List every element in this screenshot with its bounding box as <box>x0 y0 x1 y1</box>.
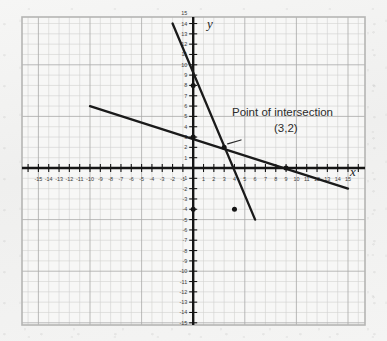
y-tick-label: 10 <box>181 62 187 68</box>
coordinate-plane: -15-14-13-12-11-10-9-8-7-6-5-4-3-2-11234… <box>0 0 387 341</box>
marked-point <box>222 145 227 150</box>
y-tick-label: 14 <box>181 21 187 27</box>
x-tick-label: -5 <box>139 176 144 182</box>
x-tick-label: -2 <box>170 176 175 182</box>
x-axis-label: x <box>349 164 356 179</box>
y-tick-label: -13 <box>179 299 187 305</box>
y-tick-label: 8 <box>184 82 187 88</box>
y-tick-label: 4 <box>184 124 187 130</box>
marked-point <box>191 207 196 212</box>
x-tick-label: -4 <box>150 176 155 182</box>
x-tick-label: 10 <box>293 176 299 182</box>
y-tick-label: 2 <box>184 144 187 150</box>
x-tick-label: -13 <box>55 176 63 182</box>
y-tick-label: -3 <box>182 196 187 202</box>
x-tick-label: -8 <box>108 176 113 182</box>
y-tick-label: -1 <box>182 175 187 181</box>
y-tick-label: -12 <box>179 289 187 295</box>
x-tick-label: 14 <box>335 176 341 182</box>
y-tick-label: -14 <box>179 309 187 315</box>
x-tick-label: -15 <box>35 176 43 182</box>
marked-point <box>284 166 289 171</box>
annotation-coords: (3,2) <box>274 122 298 134</box>
marked-point <box>232 207 237 212</box>
y-tick-label: 1 <box>184 155 187 161</box>
y-tick-label: -6 <box>182 227 187 233</box>
x-tick-label: -7 <box>119 176 124 182</box>
x-tick-label: 5 <box>243 176 246 182</box>
y-tick-label: -10 <box>179 268 187 274</box>
x-tick-label: 6 <box>254 176 257 182</box>
x-tick-label: 1 <box>202 176 205 182</box>
x-tick-label: 2 <box>212 176 215 182</box>
y-tick-label: -15 <box>179 320 187 326</box>
y-tick-label: 15 <box>181 10 187 16</box>
y-tick-label: 9 <box>184 72 187 78</box>
x-tick-label: -12 <box>65 176 73 182</box>
y-tick-label: -5 <box>182 217 187 223</box>
x-tick-label: 8 <box>274 176 277 182</box>
y-tick-label: -7 <box>182 237 187 243</box>
x-tick-label: -11 <box>76 176 83 182</box>
y-tick-label: 5 <box>184 113 187 119</box>
y-tick-label: -2 <box>182 186 187 192</box>
y-tick-label: 13 <box>181 31 187 37</box>
marked-point <box>191 83 196 88</box>
marked-point <box>191 135 196 140</box>
x-tick-label: -10 <box>86 176 94 182</box>
y-tick-label: -8 <box>182 248 187 254</box>
y-tick-label: 7 <box>184 93 187 99</box>
x-tick-label: -14 <box>45 176 53 182</box>
y-tick-label: -11 <box>180 279 187 285</box>
graph-figure: -15-14-13-12-11-10-9-8-7-6-5-4-3-2-11234… <box>0 0 387 341</box>
x-tick-label: 4 <box>233 176 236 182</box>
x-tick-label: 7 <box>264 176 267 182</box>
annotation-title: Point of intersection <box>232 106 333 118</box>
y-tick-label: 6 <box>184 103 187 109</box>
x-tick-label: 3 <box>223 176 226 182</box>
x-tick-label: -6 <box>129 176 134 182</box>
y-tick-label: -4 <box>182 206 187 212</box>
x-tick-label: -9 <box>98 176 103 182</box>
y-tick-label: -9 <box>182 258 187 264</box>
x-tick-label: -3 <box>160 176 165 182</box>
y-axis-label: y <box>205 16 213 31</box>
x-tick-label: 9 <box>285 176 288 182</box>
